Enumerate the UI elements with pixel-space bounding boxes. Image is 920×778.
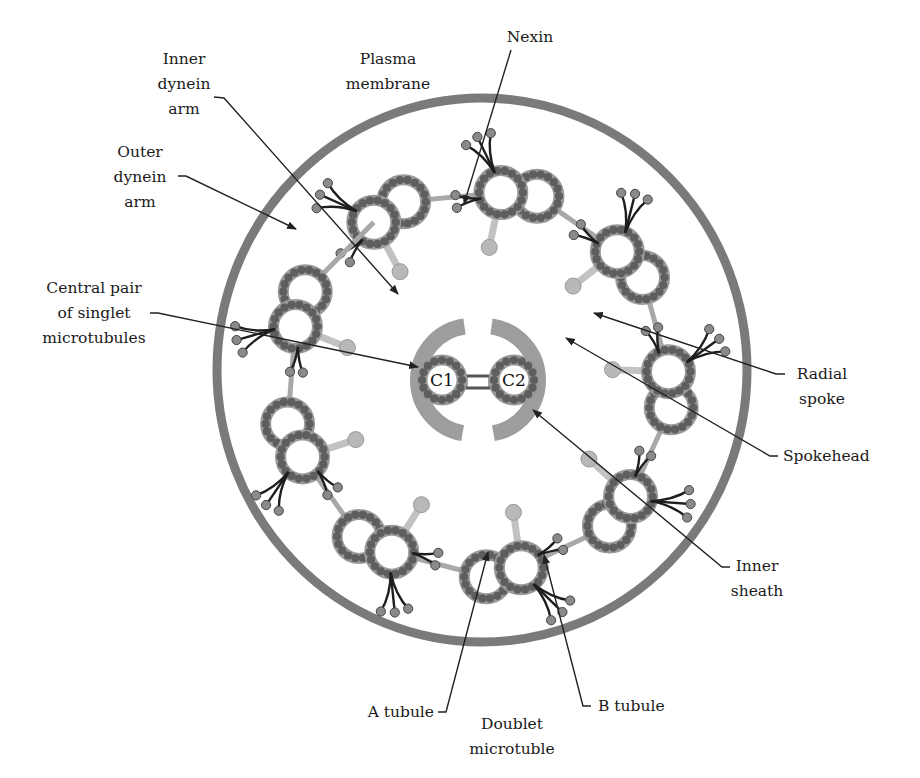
central-bridge — [466, 376, 490, 388]
doublet — [565, 188, 669, 371]
central-apparatus: C1C2 — [418, 327, 538, 434]
label-plasma-membrane: Plasmamembrane — [346, 50, 430, 93]
label-inner-dynein-arm: Innerdyneinarm — [158, 50, 211, 118]
a-tubule — [269, 301, 321, 353]
label-radial-spoke: Radialspoke — [797, 365, 847, 408]
label-outer-dynein-arm: Outerdyneinarm — [114, 143, 167, 211]
label-central-pair: Central pairof singletmicrotubules — [42, 279, 145, 347]
outer-dynein-arm — [461, 129, 495, 173]
spokehead — [605, 362, 621, 378]
a-tubule — [604, 471, 656, 523]
doublet — [312, 176, 501, 280]
c1-label: C1 — [430, 370, 454, 390]
spokehead — [581, 451, 597, 467]
spokehead — [505, 504, 521, 520]
spokehead — [348, 432, 364, 448]
a-tubule — [366, 526, 418, 578]
a-tubule — [495, 542, 547, 594]
outer-dynein-arm — [312, 179, 356, 213]
label-inner-sheath: Innersheath — [731, 557, 784, 600]
c2-label: C2 — [502, 370, 526, 390]
a-tubule — [591, 226, 643, 278]
diagram-canvas: C1C2 Innerdyneinarm Plasmamembrane Nexin… — [0, 0, 920, 778]
doublet — [451, 129, 617, 256]
a-tubule — [642, 346, 694, 398]
label-spokehead: Spokehead — [783, 447, 870, 465]
a-tubule — [475, 167, 527, 219]
label-doublet-microtubule: Doubletmicrotuble — [469, 715, 554, 758]
label-b-tubule: B tubule — [598, 697, 665, 715]
axoneme-diagram: C1C2 Innerdyneinarm Plasmamembrane Nexin… — [0, 0, 920, 778]
outer-dynein-arm — [534, 584, 575, 625]
label-a-tubule: A tubule — [367, 703, 434, 721]
spokehead — [392, 264, 408, 280]
spokehead — [565, 278, 581, 294]
label-nexin: Nexin — [507, 28, 553, 46]
spokehead — [481, 239, 497, 255]
doublet — [392, 504, 575, 624]
spokehead — [413, 497, 429, 513]
